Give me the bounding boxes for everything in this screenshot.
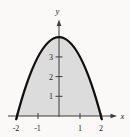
- parabola-figure: -2 -1 1 2 1 2 3 y x: [0, 0, 130, 137]
- x-tick-label-pos2: 2: [99, 124, 103, 133]
- y-tick-label-2: 2: [49, 73, 53, 82]
- y-tick-label-3: 3: [49, 53, 53, 62]
- x-tick-label-pos1: 1: [78, 124, 82, 133]
- function-graph-svg: -2 -1 1 2 1 2 3 y x: [0, 0, 130, 137]
- x-axis-label: x: [120, 111, 125, 121]
- y-tick-label-1: 1: [49, 92, 53, 101]
- x-tick-label-neg2: -2: [13, 124, 20, 133]
- x-tick-label-neg1: -1: [34, 124, 41, 133]
- y-axis-label: y: [55, 6, 60, 16]
